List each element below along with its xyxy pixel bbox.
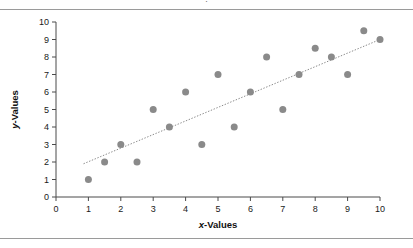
x-tick-label: 4 xyxy=(183,204,188,214)
data-point xyxy=(312,45,319,52)
x-tick-label: 5 xyxy=(215,204,220,214)
x-tick-label: 2 xyxy=(118,204,123,214)
data-point xyxy=(215,71,222,78)
y-tick-label: 0 xyxy=(44,192,49,202)
y-axis-title-rest: -Values xyxy=(9,90,20,123)
y-tick-label: 8 xyxy=(44,52,49,62)
y-tick-label: 4 xyxy=(44,122,49,132)
data-points-group xyxy=(85,27,384,183)
y-tick-label: 5 xyxy=(44,105,49,115)
y-tick-label: 2 xyxy=(44,157,49,167)
data-point xyxy=(166,124,173,131)
x-tick-label: 0 xyxy=(53,204,58,214)
data-point xyxy=(150,106,157,113)
y-tick-label: 1 xyxy=(44,175,49,185)
data-point xyxy=(231,124,238,131)
x-tick-label: 7 xyxy=(280,204,285,214)
data-point xyxy=(263,54,270,61)
y-tick-label: 6 xyxy=(44,87,49,97)
y-tick-label: 7 xyxy=(44,70,49,80)
x-tick-label: 10 xyxy=(375,204,385,214)
x-axis-title: x-Values xyxy=(198,219,238,230)
data-point xyxy=(328,54,335,61)
data-point xyxy=(279,106,286,113)
data-point xyxy=(296,71,303,78)
x-tick-label: 1 xyxy=(86,204,91,214)
x-tick-label: 3 xyxy=(151,204,156,214)
x-tick-label: 6 xyxy=(248,204,253,214)
x-tick-label: 8 xyxy=(313,204,318,214)
trendline xyxy=(84,40,380,164)
data-point xyxy=(198,141,205,148)
y-tick-label: 9 xyxy=(44,35,49,45)
scatter-plot: 012345678910012345678910x-Valuesy-Values xyxy=(0,0,413,248)
data-point xyxy=(117,141,124,148)
data-point xyxy=(182,89,189,96)
data-point xyxy=(377,36,384,43)
data-point xyxy=(101,159,108,166)
data-point xyxy=(360,27,367,34)
y-axis-title: y-Values xyxy=(9,90,20,130)
data-point xyxy=(134,159,141,166)
y-tick-label: 3 xyxy=(44,140,49,150)
data-point xyxy=(85,176,92,183)
x-tick-label: 9 xyxy=(345,204,350,214)
data-point xyxy=(344,71,351,78)
x-axis-title-rest: -Values xyxy=(204,219,237,230)
y-tick-label: 10 xyxy=(39,17,49,27)
data-point xyxy=(247,89,254,96)
figure-container: · 012345678910012345678910x-Valuesy-Valu… xyxy=(0,0,413,248)
